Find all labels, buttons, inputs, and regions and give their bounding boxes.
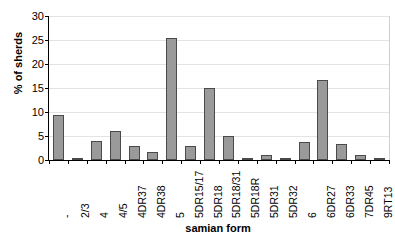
y-axis-tick-labels: 051015202530 xyxy=(18,10,44,162)
x-axis-tick-label: 4DR37 xyxy=(137,185,148,218)
bar xyxy=(110,131,121,160)
x-axis-title: samian form xyxy=(48,222,388,234)
x-axis-tick-label: 2/3 xyxy=(80,203,91,218)
x-axis-tick-label: 7DR45 xyxy=(364,185,375,218)
bar xyxy=(336,144,347,160)
bar xyxy=(299,142,310,160)
bar-series xyxy=(49,16,389,160)
x-axis-tick-label: 9RT13 xyxy=(383,187,394,218)
x-axis-tick-label: 6DR27 xyxy=(326,185,337,218)
bar xyxy=(72,158,83,160)
bar xyxy=(147,152,158,160)
y-axis-tick-label: 5 xyxy=(18,131,44,142)
bar xyxy=(242,158,253,160)
bar xyxy=(91,141,102,160)
bar xyxy=(261,155,272,160)
x-axis-tick-label: 5DR15/17 xyxy=(194,171,205,218)
y-axis-tick-label: 20 xyxy=(18,59,44,70)
bar xyxy=(317,80,328,160)
plot-area xyxy=(48,16,389,161)
x-axis-tick-label: - xyxy=(61,215,72,219)
y-axis-tick-label: 0 xyxy=(18,155,44,166)
bar xyxy=(355,155,366,160)
x-axis-tick-label: 5DR32 xyxy=(288,185,299,218)
x-axis-tick-labels: -2/344/54DR374DR3855DR15/175DR185DR18/31… xyxy=(48,162,388,220)
bar xyxy=(185,146,196,160)
x-axis-tick-label: 5DR18/31 xyxy=(231,171,242,218)
bar xyxy=(374,158,385,160)
y-axis-tick-label: 15 xyxy=(18,83,44,94)
bar xyxy=(223,136,234,160)
x-axis-tick-label: 4/5 xyxy=(118,203,129,218)
y-axis-tick-label: 10 xyxy=(18,107,44,118)
bar xyxy=(129,146,140,160)
x-axis-tick-label: 5DR18R xyxy=(250,178,261,218)
bar-chart: % of sherds 051015202530 -2/344/54DR374D… xyxy=(0,0,395,241)
x-axis-tickmark xyxy=(389,160,390,164)
bar xyxy=(166,38,177,160)
x-axis-tick-label: 5DR31 xyxy=(269,185,280,218)
bar xyxy=(280,158,291,160)
x-axis-tick-label: 6DR33 xyxy=(345,185,356,218)
x-axis-tick-label: 5DR18 xyxy=(213,185,224,218)
y-axis-tick-label: 25 xyxy=(18,35,44,46)
plot-frame-right xyxy=(389,16,390,160)
x-axis-tick-label: 6 xyxy=(307,212,318,218)
x-axis-tick-label: 4DR38 xyxy=(156,185,167,218)
x-axis-tick-label: 5 xyxy=(175,212,186,218)
y-axis-tick-label: 30 xyxy=(18,11,44,22)
x-axis-tick-label: 4 xyxy=(99,212,110,218)
bar xyxy=(204,88,215,160)
bar xyxy=(53,115,64,160)
